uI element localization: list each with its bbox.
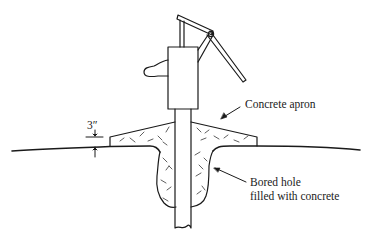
- hole-leader-arrow: [215, 168, 246, 182]
- pump-pipe: [175, 109, 191, 228]
- apron-label: Concrete apron: [245, 98, 316, 111]
- pump-rod: [180, 20, 184, 47]
- dimension-label: 3″: [87, 119, 98, 131]
- hole-label-line2: filled with concrete: [250, 190, 339, 202]
- pump-body: [168, 47, 198, 109]
- dimension-marker: [86, 130, 103, 157]
- bored-hole: [157, 151, 213, 207]
- handle-bar: [177, 15, 213, 35]
- concrete-apron: [110, 122, 257, 146]
- concrete-hatching: [120, 127, 248, 201]
- hole-arrowhead: [214, 168, 220, 172]
- pump-spout: [144, 60, 168, 77]
- pump-lever: [207, 31, 246, 82]
- hole-label-line1: Bored hole: [250, 176, 301, 188]
- pump-diagram: Concrete apron 3″ Bored hole filled with…: [0, 0, 370, 236]
- apron-arrowhead: [221, 113, 227, 119]
- ground-line: [12, 146, 360, 152]
